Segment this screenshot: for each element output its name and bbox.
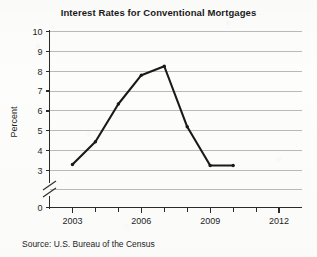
x-tick-label-2012: 2012 (269, 216, 289, 226)
x-tick-label-2003: 2003 (62, 216, 82, 226)
x-axis-ticks-group: 2003200620092012 (62, 208, 289, 226)
data-point-2004 (94, 140, 97, 143)
y-tick-label-7: 7 (37, 86, 42, 96)
y-tick-label-4: 4 (37, 146, 42, 156)
y-tick-label-5: 5 (37, 126, 42, 136)
data-point-2009 (208, 164, 211, 167)
y-tick-label-9: 9 (37, 47, 42, 57)
data-points-group (71, 65, 235, 168)
y-tick-label-0: 0 (37, 203, 42, 213)
data-point-2005 (117, 102, 120, 105)
source-note: Source: U.S. Bureau of the Census (22, 239, 155, 249)
y-tick-label-6: 6 (37, 106, 42, 116)
gridlines-group (50, 32, 303, 208)
y-axis-title: Percent (9, 106, 19, 138)
data-point-2006 (140, 73, 143, 76)
y-tick-label-10: 10 (32, 27, 42, 37)
data-point-2008 (186, 125, 189, 128)
data-point-2010 (231, 164, 234, 167)
x-tick-label-2009: 2009 (200, 216, 220, 226)
chart-figure: Interest Rates for Conventional Mortgage… (0, 0, 317, 257)
x-tick-label-2006: 2006 (131, 216, 151, 226)
y-tick-label-8: 8 (37, 67, 42, 77)
y-axis-ticks-group: 1098765430 (32, 27, 49, 213)
data-point-2003 (71, 163, 74, 166)
line-chart-plot: 1098765430Percent2003200620092012 (0, 0, 317, 257)
y-tick-label-3: 3 (37, 166, 42, 176)
data-point-2007 (163, 65, 166, 68)
